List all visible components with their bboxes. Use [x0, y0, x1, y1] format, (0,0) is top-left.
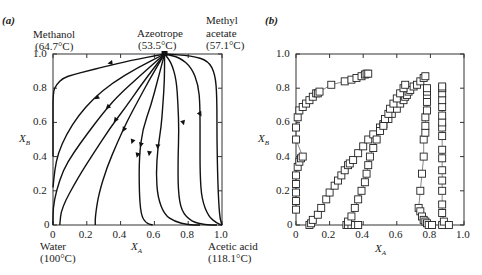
plot-points-b	[293, 70, 453, 228]
plot-curves-a	[53, 51, 222, 225]
chart-canvas	[0, 0, 482, 275]
